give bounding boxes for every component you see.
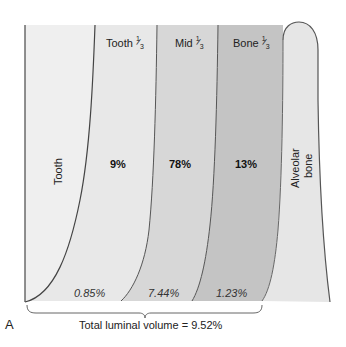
bone-third-label: Bone1/3 [233, 38, 270, 49]
total-volume-bracket [27, 305, 262, 318]
tooth-third-percent: 9% [110, 159, 126, 170]
one-third-fraction: 1/3 [196, 38, 204, 49]
one-third-fraction: 1/3 [136, 38, 144, 49]
tooth-label: Tooth [53, 158, 64, 185]
mid-third-label: Mid1/3 [175, 38, 204, 49]
panel-letter: A [5, 317, 14, 332]
tooth-third-label: Tooth1/3 [106, 38, 144, 49]
mid-third-percent: 78% [169, 159, 191, 170]
bone-third-percent: 13% [235, 159, 257, 170]
pdl-vascular-volume-diagram: Tooth Alveolar bone Tooth1/3 Mid1/3 Bone… [0, 0, 346, 347]
tooth-third-volume: 0.85% [74, 288, 105, 299]
alveolar-bone-label-line1: Alveolar [290, 148, 301, 188]
one-third-fraction: 1/3 [262, 38, 270, 49]
bone-third-volume: 1.23% [216, 288, 247, 299]
total-luminal-volume-label: Total luminal volume = 9.52% [79, 319, 222, 331]
mid-third-volume: 7.44% [148, 288, 179, 299]
alveolar-bone-label-line2: bone [303, 154, 314, 178]
